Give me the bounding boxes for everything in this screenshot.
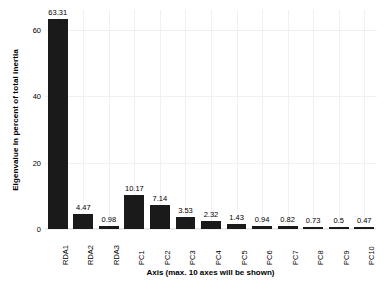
bar-series: 63.314.470.9810.177.143.532.321.430.940.… xyxy=(45,10,377,229)
bar-value-label: 1.43 xyxy=(229,213,244,222)
bar[interactable] xyxy=(99,226,119,229)
x-axis-tick-label: PC3 xyxy=(188,250,197,265)
bar[interactable] xyxy=(150,205,170,229)
bar-value-label: 0.94 xyxy=(255,215,270,224)
y-axis-tick-label: 0 xyxy=(37,225,41,234)
x-axis-tick-label: RDA3 xyxy=(112,245,121,265)
bar-group[interactable]: 0.47 xyxy=(354,10,374,229)
x-axis-tick-label: PC8 xyxy=(316,250,325,265)
bar[interactable] xyxy=(303,227,323,229)
bar[interactable] xyxy=(329,227,349,229)
x-axis-tick-labels: RDA1RDA2RDA3PC1PC2PC3PC4PC5PC6PC7PC8PC9P… xyxy=(45,233,377,267)
bar-value-label: 4.47 xyxy=(76,203,91,212)
eigenvalue-barplot: Eigenvalue in percent of total inertia 0… xyxy=(0,0,389,289)
x-axis-title: Axis (max. 10 axes will be shown) xyxy=(49,268,372,277)
bar-group[interactable]: 0.98 xyxy=(99,10,119,229)
y-axis-tick-labels: 0204060 xyxy=(26,10,41,229)
bar-group[interactable]: 0.82 xyxy=(278,10,298,229)
bar-group[interactable]: 7.14 xyxy=(150,10,170,229)
bar[interactable] xyxy=(252,226,272,229)
bar-value-label: 10.17 xyxy=(125,184,144,193)
bar-value-label: 2.32 xyxy=(204,210,219,219)
x-axis-tick-label: PC7 xyxy=(291,250,300,265)
x-axis-tick-label: PC10 xyxy=(367,246,376,265)
x-axis-tick-label: PC9 xyxy=(342,250,351,265)
bar-value-label: 0.73 xyxy=(306,216,321,225)
bar[interactable] xyxy=(124,195,144,229)
y-axis-title: Eigenvalue in percent of total inertia xyxy=(8,4,24,236)
bar-value-label: 63.31 xyxy=(48,8,67,17)
bar-value-label: 3.53 xyxy=(178,206,193,215)
x-axis-tick-label: RDA2 xyxy=(86,245,95,265)
bar[interactable] xyxy=(354,227,374,229)
bar-value-label: 0.82 xyxy=(280,215,295,224)
bar-value-label: 0.47 xyxy=(357,216,372,225)
x-axis-tick-label: PC4 xyxy=(214,250,223,265)
gridline-horizontal xyxy=(45,229,377,230)
bar[interactable] xyxy=(201,221,221,229)
y-axis-tick-label: 60 xyxy=(33,25,41,34)
bar-group[interactable]: 2.32 xyxy=(201,10,221,229)
bar-value-label: 0.5 xyxy=(333,216,343,225)
bar-group[interactable]: 0.5 xyxy=(329,10,349,229)
y-axis-tick-label: 20 xyxy=(33,158,41,167)
bar-value-label: 0.98 xyxy=(102,215,117,224)
bar-group[interactable]: 1.43 xyxy=(227,10,247,229)
bar-group[interactable]: 4.47 xyxy=(73,10,93,229)
bar[interactable] xyxy=(278,226,298,229)
bar-group[interactable]: 10.17 xyxy=(124,10,144,229)
x-axis-tick-label: RDA1 xyxy=(61,245,70,265)
bar-group[interactable]: 0.94 xyxy=(252,10,272,229)
bar-group[interactable]: 0.73 xyxy=(303,10,323,229)
bar[interactable] xyxy=(227,224,247,229)
bar[interactable] xyxy=(73,214,93,229)
bar-value-label: 7.14 xyxy=(153,194,168,203)
x-axis-tick-label: PC6 xyxy=(265,250,274,265)
bar[interactable] xyxy=(176,217,196,229)
x-axis-tick-label: PC1 xyxy=(137,250,146,265)
bar[interactable] xyxy=(48,19,68,229)
x-axis-tick-label: PC2 xyxy=(163,250,172,265)
y-axis-tick-label: 40 xyxy=(33,92,41,101)
bar-group[interactable]: 3.53 xyxy=(176,10,196,229)
bar-group[interactable]: 63.31 xyxy=(48,10,68,229)
x-axis-tick-label: PC5 xyxy=(240,250,249,265)
